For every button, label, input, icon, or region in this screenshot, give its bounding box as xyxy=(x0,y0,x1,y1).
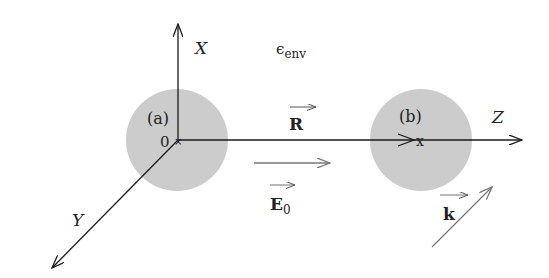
sphere-b-center-marker: x xyxy=(416,133,424,149)
k-vector-label: k xyxy=(443,204,456,224)
sphere-a-label: (a) xyxy=(147,109,169,128)
y-axis-label: Y xyxy=(72,210,85,230)
origin-label: 0 xyxy=(160,133,170,151)
x-axis-label: X xyxy=(193,38,208,58)
e0-vector-label: E0 xyxy=(270,194,291,217)
r-vector-label: R xyxy=(289,114,304,134)
y-axis xyxy=(52,140,178,268)
diagram-canvas: × x X Z Y 0 (a) (b) ϵenv R E0 k xyxy=(0,0,549,278)
sphere-b-label: (b) xyxy=(399,107,422,126)
k-wave-vector-arrow xyxy=(432,187,492,247)
z-axis-label: Z xyxy=(491,107,505,127)
environment-permittivity-label: ϵenv xyxy=(276,40,306,61)
origin-marker: × xyxy=(174,136,182,147)
